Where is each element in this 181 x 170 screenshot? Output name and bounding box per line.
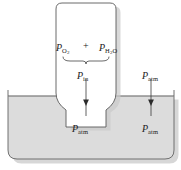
label-p-o2: PO2 — [56, 38, 70, 55]
pressure-diagram-figure: PO2 + PH2O Pin Patm Patm Patm — [0, 0, 181, 170]
label-p-in: Pin — [77, 66, 88, 82]
label-p-atm-outside-bottom: Patm — [142, 119, 158, 135]
label-plus-sign: + — [83, 40, 89, 51]
label-p-h2o-sub-o: O — [113, 47, 118, 54]
label-p-atm-outside-bottom-sub: atm — [148, 128, 158, 135]
diagram-canvas — [0, 0, 181, 170]
label-p-h2o: PH2O — [99, 38, 117, 55]
label-p-in-sub: in — [83, 75, 88, 82]
label-p-atm-outside-top: Patm — [142, 66, 158, 82]
label-p-atm-inside-sub: atm — [78, 128, 88, 135]
label-p-atm-outside-top-sub: atm — [148, 75, 158, 82]
label-p-o2-sub2: 2 — [67, 50, 70, 55]
label-p-atm-inside: Patm — [72, 119, 88, 135]
